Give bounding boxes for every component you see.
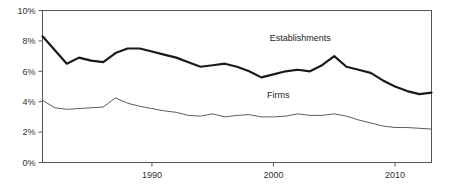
x-axis-ticks: 199020002010 [142,163,405,180]
line-chart: 0%2%4%6%8%10% 199020002010 Establishment… [0,0,450,189]
plot-frame [43,11,432,163]
y-tick-label: 2% [22,127,35,137]
chart-container: 0%2%4%6%8%10% 199020002010 Establishment… [0,0,450,189]
y-tick-label: 4% [22,97,35,107]
x-tick-label: 2010 [385,170,405,180]
series-label-firms: Firms [267,90,290,100]
x-tick-label: 1990 [142,170,162,180]
y-axis-ticks: 0%2%4%6%8%10% [17,6,42,168]
series-label-establishments: Establishments [270,33,332,43]
y-tick-label: 10% [17,6,35,16]
y-tick-label: 6% [22,67,35,77]
y-tick-label: 0% [22,158,35,168]
y-tick-label: 8% [22,36,35,46]
x-tick-label: 2000 [263,170,283,180]
